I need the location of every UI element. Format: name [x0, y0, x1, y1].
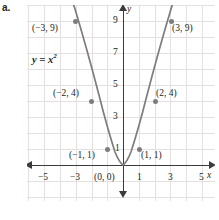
y-tick-label: 7 [113, 47, 118, 57]
y-tick-label: 3 [113, 111, 118, 121]
point-label-minus3-9: (−3, 9) [32, 23, 58, 33]
y-tick-label: 1 [115, 143, 120, 153]
figure-root: a. [0, 0, 219, 220]
point-label-minus1-1: (−1, 1) [69, 150, 95, 160]
equation-rhs-exponent: 2 [53, 52, 57, 60]
y-axis-name: y [127, 4, 131, 14]
data-point-marker [73, 19, 78, 24]
part-letter: a. [2, 2, 10, 13]
y-tick-label: 9 [113, 15, 118, 25]
point-label-0-0: (0, 0) [94, 172, 115, 182]
coordinate-plane [27, 5, 215, 201]
x-tick-label: −3 [70, 172, 80, 182]
parabola-curve [27, 5, 215, 201]
point-label-1-1: (1, 1) [141, 150, 162, 160]
point-label-minus2-4: (−2, 4) [53, 88, 79, 98]
data-point-marker [153, 99, 158, 104]
equation-label: y = x2 [32, 52, 57, 65]
x-tick-label: 3 [168, 172, 173, 182]
x-tick-label: 5 [199, 172, 204, 182]
point-label-3-9: (3, 9) [172, 23, 193, 33]
y-tick-label: 5 [113, 79, 118, 89]
point-label-2-4: (2, 4) [156, 88, 177, 98]
data-point-marker [89, 99, 94, 104]
x-tick-label: 1 [137, 172, 142, 182]
data-point-marker [105, 147, 110, 152]
x-axis-name: x [207, 170, 211, 180]
x-tick-label: −5 [38, 172, 48, 182]
